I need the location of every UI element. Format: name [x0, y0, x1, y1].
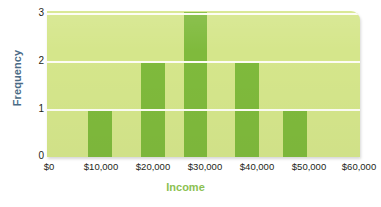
- x-tick-label: $0: [19, 161, 79, 173]
- x-tick-label: $10,000: [71, 161, 131, 173]
- x-tick-label: $60,000: [329, 161, 381, 173]
- x-axis-title: Income: [0, 181, 371, 193]
- y-axis-title: Frequency: [11, 33, 23, 123]
- y-tick-label: 1: [24, 104, 44, 114]
- plot-area: [47, 11, 360, 157]
- x-tick-label: $30,000: [175, 161, 235, 173]
- bar-bin-6: [283, 109, 307, 157]
- x-tick-label: $20,000: [123, 161, 183, 173]
- gridline-y2: [47, 61, 360, 63]
- x-axis-tick-labels: $0 $10,000 $20,000 $30,000 $40,000 $50,0…: [0, 161, 371, 177]
- bar-bin-4: [184, 12, 207, 157]
- x-tick-label: $40,000: [227, 161, 287, 173]
- y-axis-tick-labels: 3 2 1 0: [24, 0, 44, 165]
- y-tick-label: 2: [24, 56, 44, 66]
- gridline-y1: [47, 109, 360, 111]
- y-tick-label: 0: [24, 151, 44, 161]
- y-tick-label: 3: [24, 8, 44, 18]
- gridline-y3: [47, 13, 360, 15]
- bar-bin-2: [88, 109, 112, 157]
